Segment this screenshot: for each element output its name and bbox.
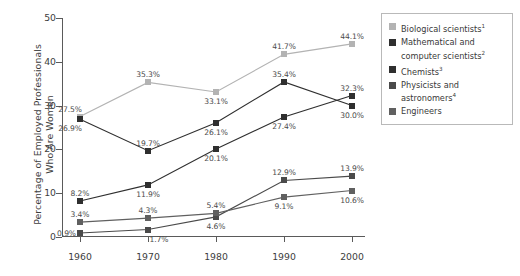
legend-item-label: Physicists and astronomers4 (401, 80, 506, 104)
data-point-marker (281, 114, 287, 120)
data-point-label: 12.9% (266, 168, 302, 177)
y-tick-label: 20 (30, 143, 56, 154)
data-point-label: 10.6% (334, 196, 370, 205)
chart-figure: Percentage of Employed Professionals Who… (0, 0, 520, 276)
x-tick-label: 1990 (254, 251, 314, 262)
x-tick-label: 1960 (50, 251, 110, 262)
legend-footnote-marker: 4 (453, 92, 457, 98)
data-point-marker (77, 198, 83, 204)
legend-swatch-icon (389, 39, 396, 46)
data-point-marker (77, 230, 83, 236)
data-point-marker (145, 227, 151, 233)
legend-item[interactable]: Engineers (389, 106, 506, 116)
data-point-label: 1.7% (141, 235, 177, 244)
data-point-label: 41.7% (266, 42, 302, 51)
data-point-label: 26.1% (198, 128, 234, 137)
x-tick-label: 1970 (118, 251, 178, 262)
data-point-marker (281, 194, 287, 200)
legend-item-label: Mathematical and computer scientists2 (401, 37, 506, 61)
data-point-label: 8.2% (62, 189, 98, 198)
data-point-label: 0.9% (40, 229, 76, 238)
data-point-label: 26.9% (52, 124, 88, 133)
data-point-marker (349, 41, 355, 47)
plot-area: 01020304050 19601970198019902000 27.5%35… (62, 18, 365, 243)
data-point-label: 19.7% (130, 139, 166, 148)
data-point-marker (213, 146, 219, 152)
legend-swatch-icon (389, 23, 396, 30)
data-point-marker (349, 173, 355, 179)
legend-item-label: Biological scientists1 (401, 21, 485, 34)
data-point-marker (213, 210, 219, 216)
data-point-label: 33.1% (198, 97, 234, 106)
legend-item[interactable]: Chemists3 (389, 64, 506, 77)
data-point-marker (145, 215, 151, 221)
data-point-marker (349, 103, 355, 109)
data-point-label: 44.1% (334, 32, 370, 41)
y-tick-label: 40 (30, 56, 56, 67)
legend-footnote-marker: 2 (482, 50, 486, 56)
data-point-label: 13.9% (334, 164, 370, 173)
data-point-label: 27.5% (52, 105, 88, 114)
data-point-label: 35.4% (266, 70, 302, 79)
data-point-marker (349, 188, 355, 194)
data-point-label: 27.4% (266, 122, 302, 131)
data-point-label: 30.0% (334, 111, 370, 120)
data-point-label: 11.9% (130, 190, 166, 199)
data-point-marker (145, 79, 151, 85)
legend-item[interactable]: Biological scientists1 (389, 21, 506, 34)
legend-item-label: Engineers (401, 106, 442, 116)
data-point-label: 35.3% (130, 70, 166, 79)
legend-item-label: Chemists3 (401, 64, 443, 77)
x-tick-label: 1980 (186, 251, 246, 262)
data-point-label: 20.1% (198, 154, 234, 163)
data-point-label: 9.1% (266, 202, 302, 211)
data-point-marker (281, 51, 287, 57)
legend-item[interactable]: Physicists and astronomers4 (389, 80, 506, 104)
legend-footnote-marker: 3 (439, 66, 443, 72)
chart-legend: Biological scientists1Mathematical and c… (381, 13, 513, 125)
data-point-marker (77, 219, 83, 225)
data-point-marker (145, 182, 151, 188)
data-point-label: 32.3% (334, 84, 370, 93)
data-point-label: 5.4% (198, 201, 234, 210)
data-point-label: 4.3% (130, 206, 166, 215)
data-point-marker (281, 79, 287, 85)
y-tick-label: 10 (30, 187, 56, 198)
data-point-label: 4.6% (198, 222, 234, 231)
data-point-marker (213, 120, 219, 126)
data-point-label: 3.4% (62, 210, 98, 219)
data-point-marker (145, 148, 151, 154)
legend-swatch-icon (389, 82, 396, 89)
y-tick-label: 50 (30, 12, 56, 23)
data-point-marker (281, 177, 287, 183)
legend-swatch-icon (389, 108, 396, 115)
data-point-marker (213, 89, 219, 95)
data-point-marker (77, 116, 83, 122)
data-point-marker (349, 93, 355, 99)
x-tick-label: 2000 (322, 251, 382, 262)
legend-item[interactable]: Mathematical and computer scientists2 (389, 37, 506, 61)
legend-footnote-marker: 1 (482, 23, 486, 29)
legend-swatch-icon (389, 66, 396, 73)
series-points: 27.5%35.3%33.1%41.7%44.1%26.9%19.7%26.1%… (62, 18, 365, 243)
